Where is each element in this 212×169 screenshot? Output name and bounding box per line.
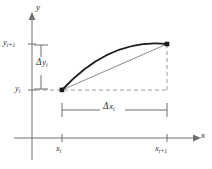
y-tick-label-i-plus-1: yi+1	[3, 38, 15, 48]
delta-x-label: Δxi	[103, 102, 115, 112]
x-axis	[14, 135, 201, 142]
left-endpoint-marker	[60, 88, 65, 93]
euler-step-diagram: y x yi+1 yi xi xi+1 Δyi Δxi	[0, 0, 212, 169]
x-tick-label-i-plus-1: xi+1	[155, 144, 167, 154]
y-axis-arrow-icon	[29, 12, 36, 20]
y-axis-label: y	[36, 3, 40, 12]
y-tick-label-i: yi	[15, 84, 20, 94]
x-axis-arrow-icon	[193, 135, 201, 142]
delta-y-label: Δyi	[36, 58, 48, 68]
diagram-canvas	[0, 0, 212, 169]
x-tick-label-i: xi	[56, 144, 61, 154]
x-axis-label: x	[201, 131, 205, 140]
right-endpoint-marker	[165, 42, 170, 47]
